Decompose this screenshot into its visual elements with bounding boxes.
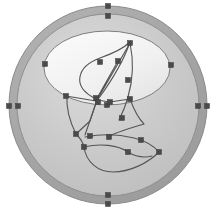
anchor-handle-leaf-left-anchor[interactable] — [64, 94, 69, 99]
anchor-handle-crescent-mid-anchor[interactable] — [126, 150, 131, 155]
anchor-handle-stem-foot-anchor[interactable] — [120, 116, 125, 121]
anchor-handle-v-bottom-anchor[interactable] — [74, 132, 79, 137]
vector-path-editor-canvas[interactable] — [0, 0, 216, 211]
anchor-handle-top-inner-anchor[interactable] — [106, 14, 111, 19]
anchor-handle-crescent-tip-anchor[interactable] — [157, 150, 162, 155]
anchor-handle-bottom-outer-anchor[interactable] — [106, 202, 111, 207]
anchor-handle-stem-mid-anchor[interactable] — [126, 78, 131, 83]
anchor-handle-stem-low-anchor[interactable] — [128, 97, 133, 102]
anchor-handle-v-right-anchor[interactable] — [88, 134, 93, 139]
anchor-handle-right-outer-anchor[interactable] — [205, 104, 210, 109]
anchor-handle-crescent-left-anchor[interactable] — [82, 145, 87, 150]
anchor-handle-ellipse-left-anchor[interactable] — [43, 62, 48, 67]
anchor-handle-ellipse-right-anchor[interactable] — [169, 63, 174, 68]
anchor-handle-leaf-upper-anchor[interactable] — [116, 59, 121, 64]
anchor-handle-left-inner-anchor[interactable] — [16, 104, 21, 109]
anchor-handle-top-outer-anchor[interactable] — [106, 4, 111, 9]
shape-upper-ellipse[interactable] — [44, 31, 170, 105]
anchor-handle-bottom-inner-anchor[interactable] — [106, 193, 111, 198]
anchor-handle-left-outer-anchor[interactable] — [7, 104, 12, 109]
anchor-handle-center-cluster-anchor-c[interactable] — [108, 100, 113, 105]
anchor-handle-center-cluster-anchor-b[interactable] — [96, 100, 101, 105]
anchor-handle-leaf-tip-anchor[interactable] — [128, 41, 133, 46]
anchor-handle-right-inner-anchor[interactable] — [196, 104, 201, 109]
anchor-handle-crescent-top-anchor[interactable] — [107, 135, 112, 140]
anchor-handle-leaf-mid-anchor[interactable] — [98, 60, 103, 65]
vector-canvas-surface[interactable] — [0, 0, 216, 211]
anchor-handle-crescent-right-anchor[interactable] — [139, 138, 144, 143]
